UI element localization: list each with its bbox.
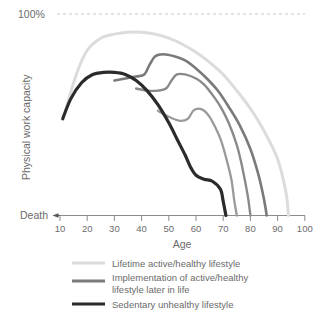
x-tick-label: 40 [136,223,147,234]
x-tick-label: 60 [191,223,202,234]
legend-item[interactable]: Lifetime active/healthy lifestyle [72,258,240,269]
x-tick-label: 50 [164,223,175,234]
y-axis-bottom-label: Death [20,209,48,221]
x-axis-ticks [60,216,305,222]
series-line [65,32,288,216]
y-axis-top-label: 100% [18,8,45,20]
legend-item-label: Implementation of active/healthy [112,272,248,283]
legend-item[interactable]: Sedentary unhealthy lifestyle [72,299,233,310]
legend: Lifetime active/healthy lifestyle Implem… [72,258,248,310]
legend-item-label-line2: lifestyle later in life [112,284,190,295]
legend-item-label: Lifetime active/healthy lifestyle [112,258,240,269]
series-line [114,54,266,215]
series-line [63,72,226,215]
x-axis-tick-labels: 10 20 30 40 50 60 70 80 90 100 [55,223,313,234]
x-tick-label: 30 [109,223,120,234]
physical-work-capacity-chart: 100% Physical work capacity Death 10 20 [0,0,317,324]
x-tick-label: 20 [82,223,93,234]
legend-item-label: Sedentary unhealthy lifestyle [112,299,233,310]
x-axis-title: Age [173,238,192,250]
x-tick-label: 80 [245,223,256,234]
x-tick-label: 100 [297,223,313,234]
legend-item[interactable]: Implementation of active/healthy lifesty… [72,272,248,295]
y-axis-title: Physical work capacity [20,74,32,180]
x-tick-label: 90 [272,223,283,234]
series-lines [63,32,289,216]
chart-container: 100% Physical work capacity Death 10 20 [0,0,317,324]
x-tick-label: 70 [218,223,229,234]
x-tick-label: 10 [55,223,66,234]
